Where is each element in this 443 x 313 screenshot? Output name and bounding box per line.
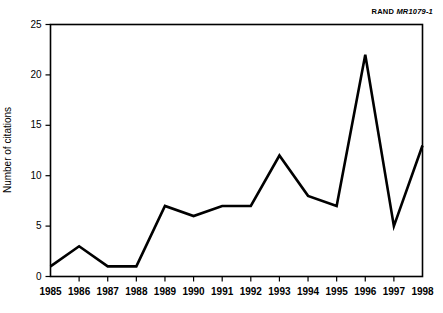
y-axis-tick-label: 20	[30, 69, 42, 80]
x-axis-tick-label: 1987	[97, 286, 120, 297]
y-axis-tick-label: 5	[36, 220, 42, 231]
x-axis-tick-label: 1993	[268, 286, 291, 297]
x-axis-tick-label: 1994	[297, 286, 320, 297]
x-axis-tick-label: 1991	[211, 286, 234, 297]
figure-container: RAND MR1079-1 Number of citations 051015…	[0, 0, 443, 313]
x-axis-tick-label: 1985	[39, 286, 62, 297]
citations-series-line	[51, 55, 423, 267]
y-axis-tick-label: 10	[30, 170, 42, 181]
x-axis-tick-label: 1989	[154, 286, 177, 297]
x-axis-tick-label: 1996	[354, 286, 377, 297]
line-chart-plot: 0510152025198519861987198819891990199119…	[0, 0, 443, 313]
x-axis-tick-label: 1997	[383, 286, 406, 297]
y-axis-tick-label: 0	[36, 271, 42, 282]
x-axis-tick-label: 1995	[326, 286, 349, 297]
x-axis-tick-label: 1992	[240, 286, 263, 297]
x-axis-tick-label: 1998	[411, 286, 434, 297]
y-axis-tick-label: 25	[30, 19, 42, 30]
x-axis-tick-label: 1990	[182, 286, 205, 297]
x-axis-tick-label: 1988	[125, 286, 148, 297]
y-axis-tick-label: 15	[30, 119, 42, 130]
x-axis-tick-label: 1986	[68, 286, 91, 297]
